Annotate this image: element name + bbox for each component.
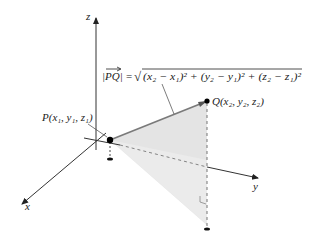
point-p-label: P(x₁, y₁, z₁) — [41, 111, 93, 124]
p-projection-dot — [107, 157, 113, 160]
y-axis-label: y — [252, 180, 258, 192]
y-axis — [207, 167, 258, 178]
formula-radicand: (x₂ − x₁)² + (y₂ − y₁)² + (z₂ − z₁)² — [143, 71, 302, 83]
p-label-leader — [88, 124, 107, 137]
point-p — [107, 137, 113, 143]
formula-radical: √ — [134, 69, 142, 84]
x-axis — [22, 133, 106, 204]
distance-formula-diagram: z y x P(x₁, y₁, z₁) Q(x₂, y₂, z₂) |PQ| =… — [0, 0, 315, 241]
point-q — [204, 98, 209, 103]
point-q-label: Q(x₂, y₂, z₂) — [212, 95, 264, 108]
z-axis-label: z — [85, 10, 91, 22]
formula-leader — [162, 84, 174, 114]
q-projection-dot — [204, 227, 210, 230]
distance-formula: |PQ| = √ (x₂ − x₁)² + (y₂ − y₁)² + (z₂ −… — [102, 67, 302, 84]
formula-lhs: |PQ| — [102, 70, 123, 82]
formula-equals: = — [126, 70, 132, 82]
x-axis-label: x — [24, 200, 30, 212]
